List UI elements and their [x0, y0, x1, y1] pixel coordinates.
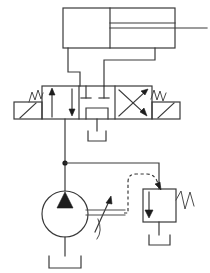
line-cap-end-to-valve-a: [68, 48, 80, 86]
valve-right-arrow-se-shaft: [119, 90, 144, 113]
hydraulic-circuit-diagram: [0, 0, 210, 273]
valve-right-spring-zigzag: [151, 90, 166, 101]
valve-position-center-tandem: [81, 86, 109, 119]
relief-valve-arrow-head: [145, 210, 153, 218]
valve-left-arrow-down-head: [69, 109, 75, 116]
valve-right-lever-stroke: [158, 103, 174, 118]
valve-envelope: [42, 86, 152, 119]
valve-position-left-parallel: [49, 88, 75, 117]
pump-flow-direction-triangle: [57, 192, 73, 208]
valve-left-lever-stroke: [20, 103, 36, 118]
valve-right-arrow-se-head: [140, 108, 147, 116]
line-rod-end-to-valve-b: [104, 48, 155, 86]
variable-displacement-pump[interactable]: [42, 191, 125, 256]
double-acting-cylinder: [63, 8, 207, 48]
cylinder-to-valve-lines: [68, 48, 155, 86]
pressure-relief-valve[interactable]: [143, 189, 194, 235]
valve-drain-tank-symbol: [88, 131, 106, 141]
relief-valve-spring-zigzag: [176, 191, 194, 209]
relief-tank-symbol: [149, 235, 170, 245]
pilot-line-path: [124, 174, 160, 213]
tank-valve-drain: [88, 119, 106, 141]
valve-center-p-to-t-link: [86, 108, 108, 119]
tank-relief-return: [149, 235, 170, 245]
pressure-line: [62, 119, 159, 191]
circuit-svg: [0, 0, 210, 273]
pump-variable-arrow-head: [106, 196, 112, 204]
valve-actuator-right[interactable]: [151, 90, 180, 119]
pump-tank-symbol: [49, 256, 81, 268]
tank-pump-suction: [49, 256, 81, 268]
three-position-four-way-valve[interactable]: [14, 86, 180, 119]
line-branch-to-relief-valve: [65, 163, 159, 189]
valve-left-arrow-up-head: [49, 88, 55, 95]
valve-actuator-left[interactable]: [14, 90, 43, 119]
valve-position-right-crossed: [119, 89, 148, 116]
relief-valve-envelope: [143, 189, 176, 222]
valve-left-spring-zigzag: [29, 90, 43, 102]
